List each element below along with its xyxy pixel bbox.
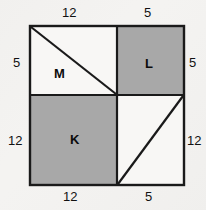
dimension-label-top-right: 5 xyxy=(144,6,151,19)
dimension-label-right-bottom: 12 xyxy=(187,134,201,147)
dimension-label-right-top: 5 xyxy=(189,56,196,69)
dimension-label-left-bottom: 12 xyxy=(8,134,22,147)
region-label-k: K xyxy=(70,133,79,146)
region-label-l: L xyxy=(145,57,153,70)
region-label-m: M xyxy=(54,67,65,80)
dimension-label-bottom-left: 12 xyxy=(63,190,77,203)
geometry-diagram xyxy=(0,0,206,210)
dimension-label-bottom-right: 5 xyxy=(145,190,152,203)
geometry-figure: 12 5 5 12 5 12 12 5 M L K xyxy=(0,0,206,210)
dimension-label-left-top: 5 xyxy=(13,56,20,69)
dimension-label-top-left: 12 xyxy=(62,6,76,19)
